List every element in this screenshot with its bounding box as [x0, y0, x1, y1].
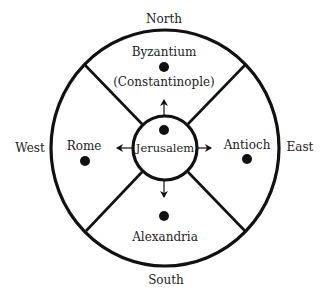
- label-rome: Rome: [67, 139, 102, 153]
- label-south: South: [148, 273, 184, 287]
- dot-rome: [80, 156, 90, 166]
- label-north: North: [146, 12, 182, 26]
- label-west: West: [15, 141, 45, 155]
- label-jerusalem: Jerusalem: [135, 141, 195, 155]
- label-east: East: [287, 140, 314, 154]
- divider-lower-left: [86, 172, 142, 231]
- label-alexandria: Alexandria: [131, 230, 198, 244]
- dot-byzantium: [159, 62, 169, 72]
- divider-lower-right: [188, 172, 245, 231]
- patriarchates-diagram: North South West East Byzantium (Constan…: [0, 0, 326, 297]
- divider-upper-right: [188, 64, 246, 124]
- divider-upper-left: [84, 64, 142, 124]
- label-constantinople: (Constantinople): [113, 75, 215, 89]
- label-byzantium: Byzantium: [132, 45, 197, 59]
- dot-alexandria: [159, 211, 169, 221]
- dot-antioch: [242, 154, 252, 164]
- dot-jerusalem: [159, 125, 169, 135]
- label-antioch: Antioch: [223, 138, 271, 152]
